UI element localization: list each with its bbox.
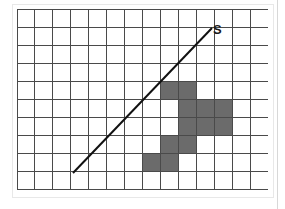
shaded-cell — [160, 136, 178, 154]
page-right-rule — [277, 0, 278, 209]
shaded-cell — [178, 100, 196, 118]
shaded-cell — [178, 118, 196, 136]
grid-svg — [17, 9, 268, 190]
figure-page: S — [0, 0, 285, 209]
shaded-cell — [196, 100, 214, 118]
shaded-cell — [143, 154, 161, 172]
shaded-cell — [214, 118, 232, 136]
line-label-s: S — [213, 23, 222, 36]
shaded-cell — [196, 118, 214, 136]
shaded-cell — [214, 100, 232, 118]
shaded-cell — [178, 136, 196, 154]
shaded-cell — [160, 154, 178, 172]
grid-area: S — [17, 9, 268, 190]
shaded-cell — [160, 81, 178, 99]
shaded-cell — [178, 81, 196, 99]
